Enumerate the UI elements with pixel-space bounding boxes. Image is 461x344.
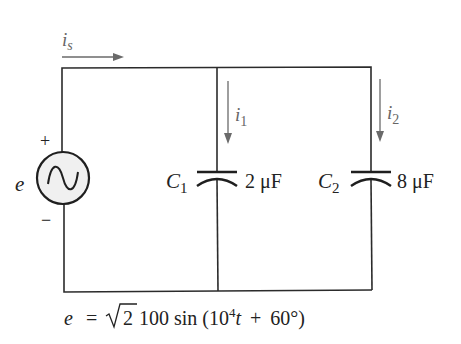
capacitor-c1-value: 2 μF xyxy=(245,170,282,193)
capacitor-c1: C1 2 μF xyxy=(166,169,282,196)
ac-voltage-source: + − e xyxy=(15,131,89,230)
branch1-current-indicator: i1 xyxy=(224,81,247,144)
equation-sqrt-arg: 2 xyxy=(123,307,133,329)
capacitor-c2-value: 8 μF xyxy=(397,170,434,193)
polarity-plus: + xyxy=(40,131,50,151)
current-label-i2: i2 xyxy=(387,102,399,127)
right-wire-bottom xyxy=(371,180,372,290)
equation-rest: 100 sin (104t + 60°) xyxy=(139,305,305,330)
arrow-head-icon xyxy=(224,133,232,144)
capacitor-c2-label: C2 xyxy=(318,169,340,196)
arrow-head-icon xyxy=(113,53,124,61)
middle-wire-bottom xyxy=(217,180,218,291)
arrow-head-icon xyxy=(376,131,384,142)
source-equation: e = 2 100 sin (104t + 60°) xyxy=(64,304,305,330)
current-label-is: is xyxy=(62,29,73,53)
capacitor-c2: C2 8 μF xyxy=(318,169,434,196)
current-label-i1: i1 xyxy=(235,104,247,129)
source-label-e: e xyxy=(15,172,24,196)
capacitor-c1-label: C1 xyxy=(166,169,188,196)
equation-lhs: e xyxy=(64,307,73,329)
polarity-minus: − xyxy=(41,210,51,230)
branch2-current-indicator: i2 xyxy=(376,79,399,142)
equation-equals: = xyxy=(86,307,97,329)
circuit-diagram: + − e is i1 i2 C1 2 μF xyxy=(0,0,461,344)
source-current-indicator: is xyxy=(62,29,124,61)
